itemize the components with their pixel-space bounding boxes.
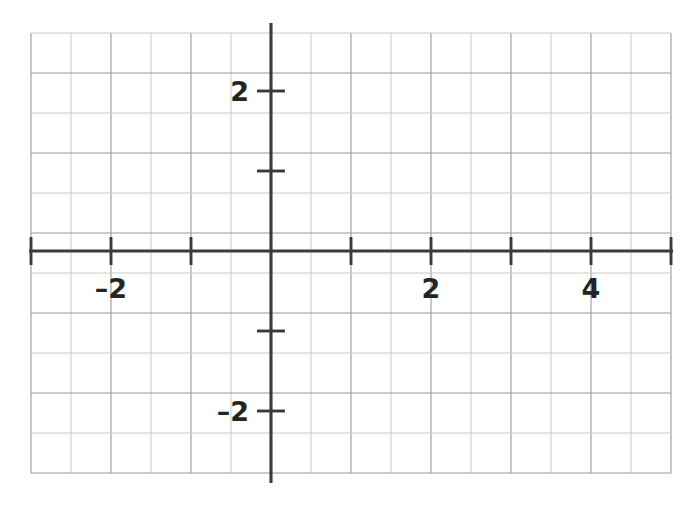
coordinate-grid-figure: –224 2–2 xyxy=(0,0,698,514)
x-axis-tick-label: 4 xyxy=(582,273,601,304)
y-axis-tick-label: 2 xyxy=(230,76,249,107)
figure-background xyxy=(0,0,698,514)
x-axis-tick-label: 2 xyxy=(422,273,441,304)
y-axis-tick-label: –2 xyxy=(217,396,249,427)
coordinate-plane-canvas: –224 2–2 xyxy=(0,0,698,514)
x-axis-tick-label: –2 xyxy=(95,273,127,304)
